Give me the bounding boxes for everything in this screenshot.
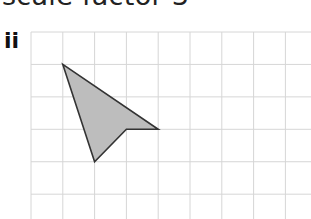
- arrowhead-shape: [63, 64, 158, 161]
- square-grid: [0, 0, 311, 219]
- grid-lines: [31, 32, 311, 219]
